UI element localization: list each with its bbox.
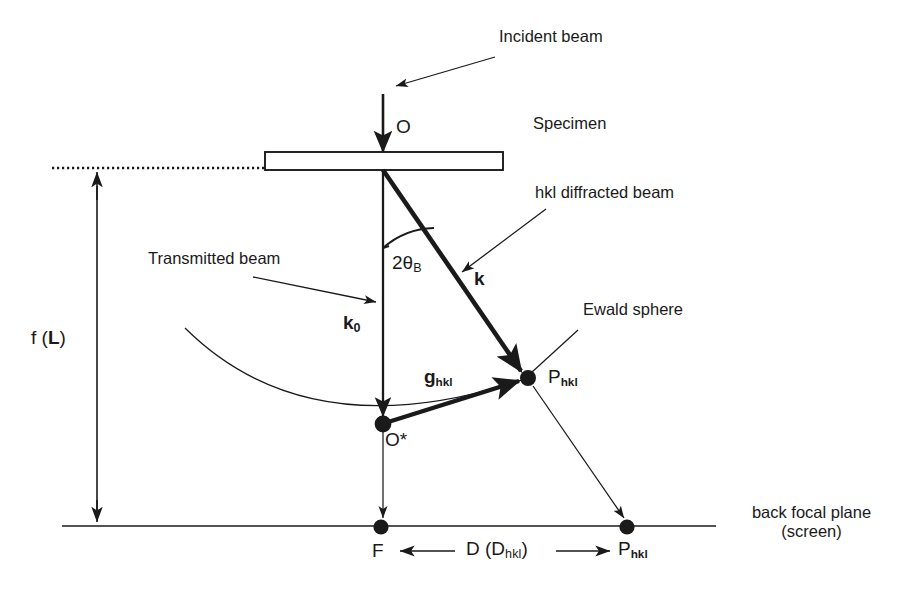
- figure-canvas: Incident beam Specimen O hkl diffracted …: [0, 0, 922, 595]
- hkl-diffracted-beam-label: hkl diffracted beam: [535, 183, 674, 202]
- ewald-sphere-label: Ewald sphere: [583, 300, 683, 319]
- vector-g-subscript: hkl: [436, 375, 453, 388]
- transmitted-beam-leader: [253, 277, 376, 302]
- focal-length-bold-l: L: [48, 327, 60, 348]
- distance-d-subscript: hkl: [505, 547, 521, 561]
- vector-k-label: k: [474, 268, 485, 290]
- point-p-hkl-lower-label: Phkl: [618, 538, 648, 561]
- bragg-angle-label: 2θB: [392, 252, 422, 276]
- distance-d-close: ): [521, 538, 527, 559]
- point-f-label: F: [372, 540, 384, 562]
- diffracted-ray-to-focal-plane: [533, 386, 624, 518]
- p-hkl-lower-subscript: hkl: [631, 547, 648, 560]
- back-focal-plane-line1: back focal plane: [729, 503, 894, 522]
- p-hkl-lower-text: P: [618, 538, 631, 559]
- vector-k0-text: k: [343, 312, 354, 333]
- p-hkl-upper-text: P: [548, 366, 561, 387]
- focal-length-label: f (L): [31, 327, 66, 349]
- vector-g-text: g: [424, 366, 436, 387]
- bragg-angle-text: 2θ: [392, 252, 413, 273]
- back-focal-plane-label: back focal plane (screen): [729, 503, 894, 542]
- back-focal-plane-line2: (screen): [729, 522, 894, 541]
- focal-length-close: ): [60, 327, 66, 348]
- point-f-dot: [373, 519, 388, 534]
- transmitted-beam-label: Transmitted beam: [148, 249, 280, 268]
- focal-length-text: f (: [31, 327, 48, 348]
- hkl-diffracted-beam-leader: [462, 209, 546, 272]
- incident-beam-label: Incident beam: [499, 27, 603, 46]
- point-p-hkl-upper-label: Phkl: [548, 366, 578, 389]
- incident-beam-leader: [396, 57, 495, 86]
- vector-k0-subscript: 0: [354, 321, 361, 335]
- specimen-label: Specimen: [533, 114, 606, 133]
- bragg-angle-subscript: B: [413, 261, 421, 275]
- point-o-star-label: O*: [385, 429, 407, 451]
- point-p-hkl-upper-dot: [520, 370, 536, 386]
- point-p-hkl-lower-dot: [619, 519, 634, 534]
- vector-k0-label: k0: [343, 312, 361, 336]
- point-o-label: O: [396, 116, 411, 138]
- vector-g-hkl-label: ghkl: [424, 366, 453, 389]
- p-hkl-upper-subscript: hkl: [561, 375, 578, 388]
- specimen-slab: [265, 152, 503, 170]
- distance-d-text: D (D: [466, 538, 505, 559]
- distance-d-label: D (Dhkl): [466, 538, 528, 562]
